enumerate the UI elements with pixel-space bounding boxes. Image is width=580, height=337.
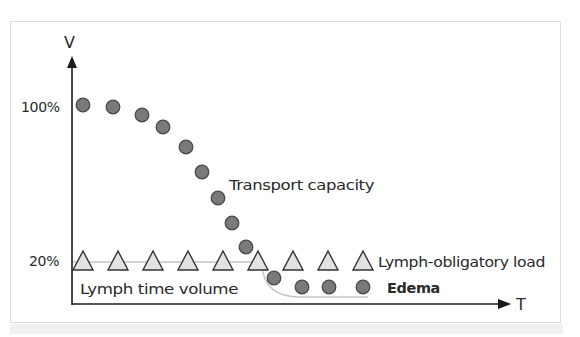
circle-marker: [195, 165, 209, 179]
circle-marker: [322, 280, 336, 294]
triangle-marker: [213, 251, 233, 270]
circle-marker: [211, 191, 225, 205]
y-axis-title: V: [64, 33, 75, 52]
circle-marker: [156, 120, 170, 134]
circle-marker: [76, 98, 90, 112]
triangle-marker: [143, 251, 163, 270]
circle-marker: [135, 108, 149, 122]
x-axis-title: T: [515, 295, 526, 314]
y-tick-100: 100%: [21, 99, 60, 115]
y-tick-20: 20%: [29, 253, 59, 269]
label-lymph-time-volume: Lymph time volume: [80, 281, 238, 297]
annotations: Transport capacity Lymph-obligatory load…: [80, 177, 545, 297]
triangle-marker: [108, 251, 128, 270]
x-axis-arrow-icon: [498, 299, 511, 309]
y-axis-arrow-icon: [67, 56, 77, 68]
triangle-marker: [283, 251, 303, 270]
label-edema: Edema: [387, 280, 440, 296]
triangle-marker: [73, 251, 93, 270]
triangle-marker: [248, 251, 268, 270]
circle-marker: [225, 216, 239, 230]
circle-marker: [106, 100, 120, 114]
triangle-marker: [353, 251, 373, 270]
circle-marker: [239, 240, 253, 254]
series-lymph-obligatory-load: [73, 251, 373, 270]
triangle-marker: [178, 251, 198, 270]
triangle-marker: [318, 251, 338, 270]
chart-canvas: V T 100% 20% Transport capacity Lymph-ob: [0, 0, 580, 337]
label-transport-capacity: Transport capacity: [228, 177, 375, 193]
circle-marker: [179, 140, 193, 154]
circle-marker: [267, 271, 281, 285]
label-lymph-obligatory-load: Lymph-obligatory load: [378, 254, 545, 270]
circle-marker: [356, 280, 370, 294]
circle-marker: [295, 280, 309, 294]
